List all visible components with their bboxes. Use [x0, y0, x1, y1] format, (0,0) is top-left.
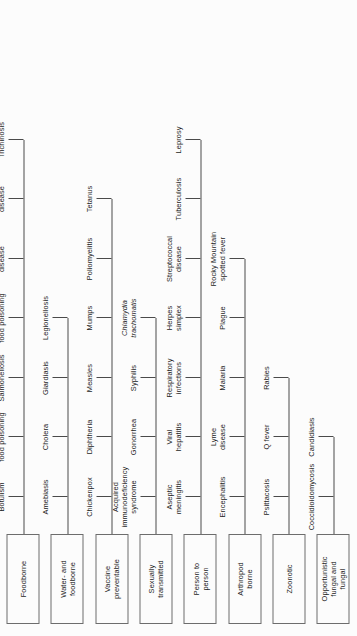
- leaf-label-staphylococcal-disease: Staphylococcal disease: [0, 225, 5, 293]
- leaf-label-legionellosis: Legionellosis: [40, 284, 49, 352]
- connector-tick-gonorrhea: [140, 436, 155, 437]
- category-box-sexually-transmitted: Sexually transmitted: [139, 534, 172, 624]
- leaf-label-herpes-simplex: Herpes simplex: [164, 284, 182, 352]
- leaf-label-rabies: Rabies: [261, 344, 270, 412]
- connector-tick-tetanus: [96, 198, 111, 199]
- category-box-foodborne: Foodborne: [6, 534, 39, 624]
- leaf-label-salmonellosis: Salmonellosis: [0, 344, 5, 412]
- connector-tick-clostridium-perfringens-food-poisoning: [8, 436, 23, 437]
- connector-tick-rabies: [273, 377, 288, 378]
- connector-tick-respiratory-infections: [185, 377, 200, 378]
- connector-spine-person-to-person: [200, 140, 201, 518]
- connector-tick-diphtheria: [96, 436, 111, 437]
- connector-tick-staphylococcal-disease: [8, 258, 23, 259]
- leaf-label-poliomyelitis: Poliomyelitis: [84, 225, 93, 293]
- leaf-label-respiratory-infections: Respiratory infections: [164, 344, 182, 412]
- connector-tick-giardiasis: [52, 377, 67, 378]
- category-box-opportunistic-fungal-and-fungal: Opportunistic fungal and fungal: [316, 534, 349, 624]
- connector-spine-water-and-foodborne: [67, 319, 68, 519]
- connector-tick-chickenpox: [96, 496, 111, 497]
- connector-tick-cholera: [52, 436, 67, 437]
- connector-spine-zoonotic: [288, 378, 289, 518]
- diagram-page: FoodborneBotulismClostridiumperfringensf…: [0, 0, 357, 636]
- leaf-label-tetanus: Tetanus: [84, 165, 93, 233]
- connector-tick-acquired-immunodeficiency-syndrome: [140, 496, 155, 497]
- connector-tick-shigellosis-food-poisoning: [8, 317, 23, 318]
- connector-lead-water-and-foodborne: [67, 518, 68, 534]
- leaf-label-botulism: Botulism: [0, 463, 5, 531]
- leaf-label-tuberculosis: Tuberculosis: [173, 165, 182, 233]
- leaf-label-leprosy: Leprosy: [173, 106, 182, 174]
- category-box-water-and-foodborne: Water- and foodborne: [50, 534, 83, 624]
- connector-tick-herpes-simplex: [185, 317, 200, 318]
- connector-tick-traveler-s-disease: [8, 198, 23, 199]
- leaf-label-rocky-mountain-spotted-fever: Rocky Mountain spotted fever: [208, 225, 226, 293]
- leaf-label-syphilis: Syphilis: [128, 344, 137, 412]
- connector-tick-q-fever: [273, 436, 288, 437]
- diagram-canvas: FoodborneBotulismClostridiumperfringensf…: [0, 0, 357, 636]
- connector-tick-legionellosis: [52, 317, 67, 318]
- connector-tick-leprosy: [185, 139, 200, 140]
- leaf-label-mumps: Mumps: [84, 284, 93, 352]
- connector-tick-botulism: [8, 496, 23, 497]
- leaf-label-coccidioidomycosis: Coccidioidomycosis: [306, 463, 315, 531]
- leaf-label-malaria: Malaria: [217, 344, 226, 412]
- connector-tick-streptococcal-disease: [185, 258, 200, 259]
- connector-lead-person-to-person: [200, 518, 201, 534]
- connector-tick-encephalitis: [229, 496, 244, 497]
- leaf-label-psittacosis: Psittacosis: [261, 463, 270, 531]
- leaf-label-q-fever: Q fever: [261, 403, 270, 471]
- connector-lead-opportunistic-fungal-and-fungal: [333, 518, 334, 534]
- connector-tick-malaria: [229, 377, 244, 378]
- leaf-label-measles: Measles: [84, 344, 93, 412]
- leaf-label-amebiasis: Amebiasis: [40, 463, 49, 531]
- connector-spine-opportunistic-fungal-and-fungal: [333, 438, 334, 519]
- leaf-label-streptococcal-disease: Streptococcal disease: [164, 225, 182, 293]
- connector-tick-tuberculosis: [185, 198, 200, 199]
- connector-lead-foodborne: [23, 518, 24, 534]
- leaf-label-clostridium-perfringens-food-poisoning: Clostridiumperfringensfood poisoning: [0, 403, 5, 471]
- connector-tick-amebiasis: [52, 496, 67, 497]
- connector-lead-sexually-transmitted: [155, 518, 156, 534]
- connector-tick-plague: [229, 317, 244, 318]
- connector-spine-foodborne: [23, 140, 24, 518]
- leaf-label-cholera: Cholera: [40, 403, 49, 471]
- category-box-vaccine-preventable: Vaccine preventable: [95, 534, 128, 624]
- connector-tick-mumps: [96, 317, 111, 318]
- connector-tick-viral-hepatitis: [185, 436, 200, 437]
- connector-spine-arthropod-borne: [244, 259, 245, 518]
- connector-tick-candidiasis: [318, 436, 333, 437]
- leaf-label-acquired-immunodeficiency-syndrome: Acquired immunodeficiency syndrome: [110, 463, 137, 531]
- connector-tick-measles: [96, 377, 111, 378]
- connector-tick-syphilis: [140, 377, 155, 378]
- connector-tick-salmonellosis: [8, 377, 23, 378]
- connector-tick-poliomyelitis: [96, 258, 111, 259]
- connector-tick-psittacosis: [273, 496, 288, 497]
- leaf-label-diphtheria: Diphtheria: [84, 403, 93, 471]
- category-box-zoonotic: Zoonotic: [272, 534, 305, 624]
- leaf-label-candidiasis: Candidiasis: [306, 403, 315, 471]
- leaf-label-viral-hepatitis: Viral hepatitis: [164, 403, 182, 471]
- leaf-label-plague: Plague: [217, 284, 226, 352]
- connector-tick-coccidioidomycosis: [318, 496, 333, 497]
- connector-tick-lyme-disease: [229, 436, 244, 437]
- leaf-label-lyme-disease: Lyme disease: [208, 403, 226, 471]
- category-box-arthropod-borne: Arthropod borne: [228, 534, 261, 624]
- connector-lead-zoonotic: [288, 518, 289, 534]
- leaf-label-giardiasis: Giardiasis: [40, 344, 49, 412]
- leaf-label-trichinosis: Trichinosis: [0, 106, 5, 174]
- leaf-label-encephalitis: Encephalitis: [217, 463, 226, 531]
- leaf-label-chickenpox: Chickenpox: [84, 463, 93, 531]
- leaf-label-gonorrhea: Gonorrhea: [128, 403, 137, 471]
- connector-lead-arthropod-borne: [244, 518, 245, 534]
- connector-tick-aseptic-meningitis: [185, 496, 200, 497]
- category-box-person-to-person: Person to person: [183, 534, 216, 624]
- leaf-label-traveler-s-disease: Traveler's disease: [0, 165, 5, 233]
- connector-tick-rocky-mountain-spotted-fever: [229, 258, 244, 259]
- connector-spine-sexually-transmitted: [155, 319, 156, 519]
- connector-tick-trichinosis: [8, 139, 23, 140]
- leaf-label-shigellosis-food-poisoning: Shigellosis food poisoning: [0, 284, 5, 352]
- connector-tick-chlamydia-trachomatis: [140, 317, 155, 318]
- leaf-label-aseptic-meningitis: Aseptic meningitis: [164, 463, 182, 531]
- leaf-label-chlamydia-trachomatis: Chlamydia trachomatis: [119, 284, 137, 352]
